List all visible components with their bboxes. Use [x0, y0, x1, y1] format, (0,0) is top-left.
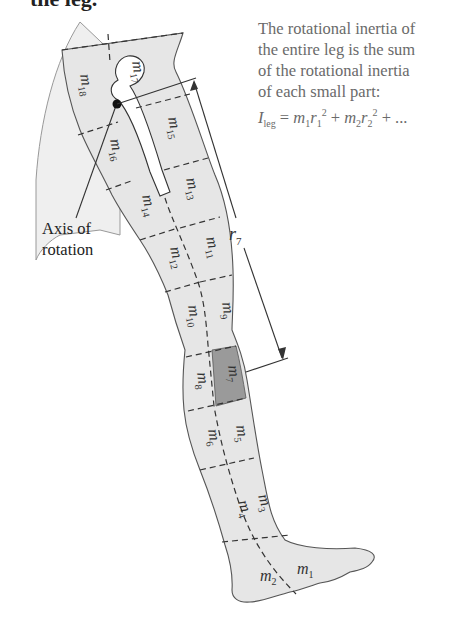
- axis-of-rotation-label: Axis of rotation: [42, 218, 93, 260]
- r7-dimension-line-bottom: [244, 248, 282, 358]
- caption-line-1: The rotational inertia of: [258, 18, 453, 39]
- section-heading: the leg.: [30, 0, 97, 12]
- caption-line-4: of each small part:: [258, 81, 453, 102]
- caption-line-2: the entire leg is the sum: [258, 39, 453, 60]
- axis-label-line-1: Axis of: [42, 218, 93, 239]
- inertia-formula: Ileg = m1r12 + m2r22 + ...: [258, 102, 453, 134]
- leg-rotational-inertia-diagram: the leg.: [0, 0, 455, 625]
- arrowhead-down-icon: [278, 347, 286, 360]
- axis-label-line-2: rotation: [42, 239, 93, 260]
- r7-label: r7: [229, 224, 242, 247]
- caption-line-3: of the rotational inertia: [258, 60, 453, 81]
- caption-text: The rotational inertia of the entire leg…: [258, 18, 453, 134]
- r7-base-line: [246, 358, 288, 372]
